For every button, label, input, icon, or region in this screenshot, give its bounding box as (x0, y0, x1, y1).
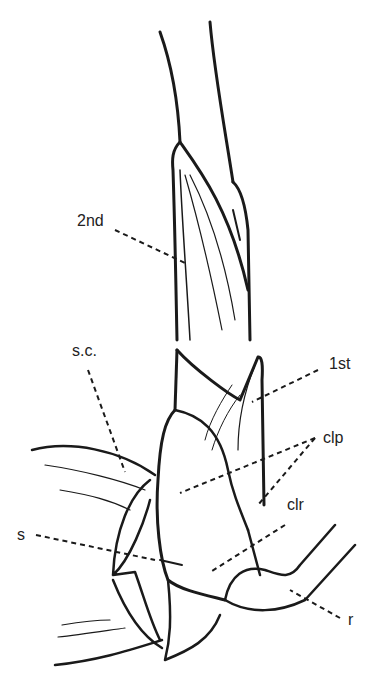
stem-left-edge (160, 32, 180, 142)
leader-clp-b (258, 438, 315, 505)
collar (157, 410, 225, 600)
leader-clp-a (180, 438, 315, 493)
label-1st: 1st (329, 356, 350, 372)
label-clr: clr (287, 497, 304, 513)
diagram-drawing (0, 0, 383, 682)
leader-sc (88, 370, 125, 472)
stem-right-edge (210, 22, 233, 182)
lower-leaf (55, 640, 162, 665)
label-s: s (17, 527, 25, 543)
label-2nd: 2nd (77, 213, 104, 229)
label-r: r (348, 612, 353, 628)
label-clp: clp (323, 430, 343, 446)
left-leaf (32, 446, 155, 475)
label-sc: s.c. (72, 343, 97, 359)
